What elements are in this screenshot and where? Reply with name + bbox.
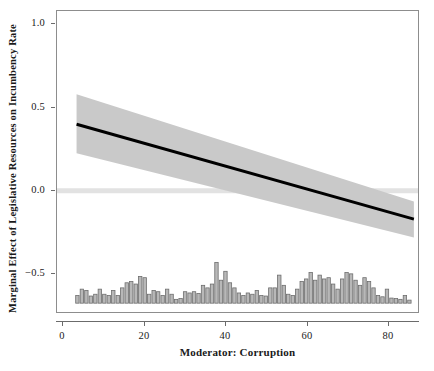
y-tick-mark [51, 107, 55, 108]
rug-histogram-bar [147, 294, 150, 303]
rug-histogram-bar [121, 288, 124, 303]
plot-canvas [57, 11, 419, 313]
rug-histogram-bar [322, 279, 325, 303]
rug-histogram-bar [403, 296, 406, 304]
x-tick-label: 20 [119, 331, 169, 342]
confidence-band-group [77, 94, 414, 237]
rug-histogram-bar [156, 292, 159, 303]
rug-histogram-bar [206, 288, 209, 303]
rug-histogram-bar [192, 292, 195, 303]
rug-histogram-bar [165, 289, 168, 303]
rug-histogram-bar [130, 282, 133, 304]
rug-histogram-bar [210, 284, 213, 303]
rug-histogram-bar [134, 284, 137, 303]
marginal-effect-line [77, 124, 414, 219]
x-tick-mark [62, 322, 63, 326]
rug-histogram-bar [305, 279, 308, 303]
y-tick-mark [51, 190, 55, 191]
rug-histogram-bar [296, 289, 299, 303]
rug-histogram-bar [112, 290, 115, 303]
rug-histogram-bar [390, 298, 393, 303]
y-tick-mark [51, 273, 55, 274]
rug-histogram-bar [89, 296, 92, 303]
plot-panel [56, 10, 419, 313]
rug-histogram-bar [161, 296, 164, 304]
rug-histogram-bar [85, 290, 88, 303]
rug-histogram-bar [188, 293, 191, 303]
rug-histogram-bar [264, 296, 267, 303]
rug-histogram-bar [399, 299, 402, 303]
rug-histogram-bar [260, 296, 263, 304]
rug-histogram-bar [345, 273, 348, 304]
rug-histogram-bar [372, 288, 375, 303]
rug-histogram-bar [242, 296, 245, 304]
rug-histogram-bar [313, 280, 316, 303]
rug-histogram-bar [116, 296, 119, 304]
x-tick-mark [144, 322, 145, 326]
confidence-band [77, 94, 414, 237]
rug-histogram-bar [255, 290, 258, 303]
rug-histogram-bar [376, 296, 379, 304]
rug-histogram-bar [139, 276, 142, 303]
rug-histogram-bar [183, 292, 186, 303]
x-tick-mark [307, 322, 308, 326]
rug-histogram-bar [336, 289, 339, 303]
rug-histogram-bar [219, 280, 222, 303]
rug-histogram-bar [408, 300, 411, 303]
rug-histogram-bar [385, 289, 388, 303]
rug-histogram-bar [228, 283, 231, 303]
y-tick-mark [51, 23, 55, 24]
x-tick-label: 60 [282, 331, 332, 342]
y-axis-title: Marginal Effect of Legislative Resources… [7, 9, 18, 329]
rug-histogram-bar [170, 294, 173, 303]
rug-histogram-bar [246, 293, 249, 303]
x-tick-mark [225, 322, 226, 326]
rug-histogram-bar [76, 296, 79, 304]
marginal-effect-line-group [77, 124, 414, 219]
rug-histogram-bar [80, 289, 83, 303]
rug-histogram-bar [94, 294, 97, 303]
rug-histogram-bar [354, 280, 357, 303]
x-tick-label: 80 [363, 331, 413, 342]
rug-histogram-bar [107, 296, 110, 304]
rug-histogram-bar [340, 279, 343, 303]
rug-histogram-bar [291, 296, 294, 304]
rug-histogram-bar [331, 284, 334, 303]
rug-histogram-bar [143, 278, 146, 303]
rug-histogram-bar [224, 271, 227, 303]
marginal-effect-plot: 1.00.50.0−0.5 020406080 Moderator: Corru… [0, 0, 434, 371]
rug-histogram-bar [233, 288, 236, 303]
x-tick-label: 40 [200, 331, 250, 342]
rug-histogram-bar [278, 275, 281, 303]
rug-histogram-bar [174, 299, 177, 303]
rug-histogram-bar [287, 294, 290, 303]
rug-histogram-bar [309, 273, 312, 304]
x-axis-title: Moderator: Corruption [56, 346, 419, 358]
x-tick-mark [388, 322, 389, 326]
rug-histogram-bar [152, 290, 155, 303]
rug-histogram-bar [215, 262, 218, 303]
rug-histogram-bar [300, 282, 303, 304]
rug-histogram-bar [103, 294, 106, 303]
rug-histogram-bar [358, 285, 361, 303]
rug-histogram-bar [273, 288, 276, 303]
rug-histogram-bar [237, 293, 240, 303]
rug-histogram-bar [318, 275, 321, 303]
rug-histogram-bar [367, 282, 370, 304]
rug-histogram-bar [282, 285, 285, 303]
rug-histogram-bar [269, 288, 272, 303]
rug-histogram-bar [381, 297, 384, 303]
rug-histogram-bar [179, 299, 182, 304]
rug-histogram-bar [363, 278, 366, 303]
x-axis-line [56, 321, 419, 322]
rug-histogram-bar [327, 278, 330, 303]
rug-histogram-bar [251, 294, 254, 303]
rug-histogram-bar [349, 274, 352, 303]
rug-histogram-bar [98, 289, 101, 303]
rug-histogram-bar [197, 293, 200, 303]
rug-histogram-bar [201, 285, 204, 303]
x-tick-label: 0 [37, 331, 87, 342]
rug-histogram-bar [394, 299, 397, 304]
rug-histogram-group [76, 262, 411, 303]
rug-histogram-bar [125, 283, 128, 303]
